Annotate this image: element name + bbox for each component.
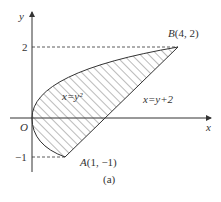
line-label: x=y+2: [142, 93, 174, 105]
figure-caption: (a): [103, 173, 116, 186]
point-a-label: A(1, −1): [79, 156, 117, 169]
tick-yneg1: −1: [15, 151, 27, 163]
x-axis-label: x: [205, 121, 211, 133]
tick-y2: 2: [22, 41, 28, 53]
origin-label: O: [20, 121, 28, 133]
region-diagram: y x O 2 −1 B(4, 2) A(1, −1) x=y² x=y+2 (…: [0, 0, 221, 202]
point-b-label: B(4, 2): [168, 27, 199, 40]
parabola-label: x=y²: [61, 90, 83, 102]
y-axis-label: y: [18, 10, 24, 22]
